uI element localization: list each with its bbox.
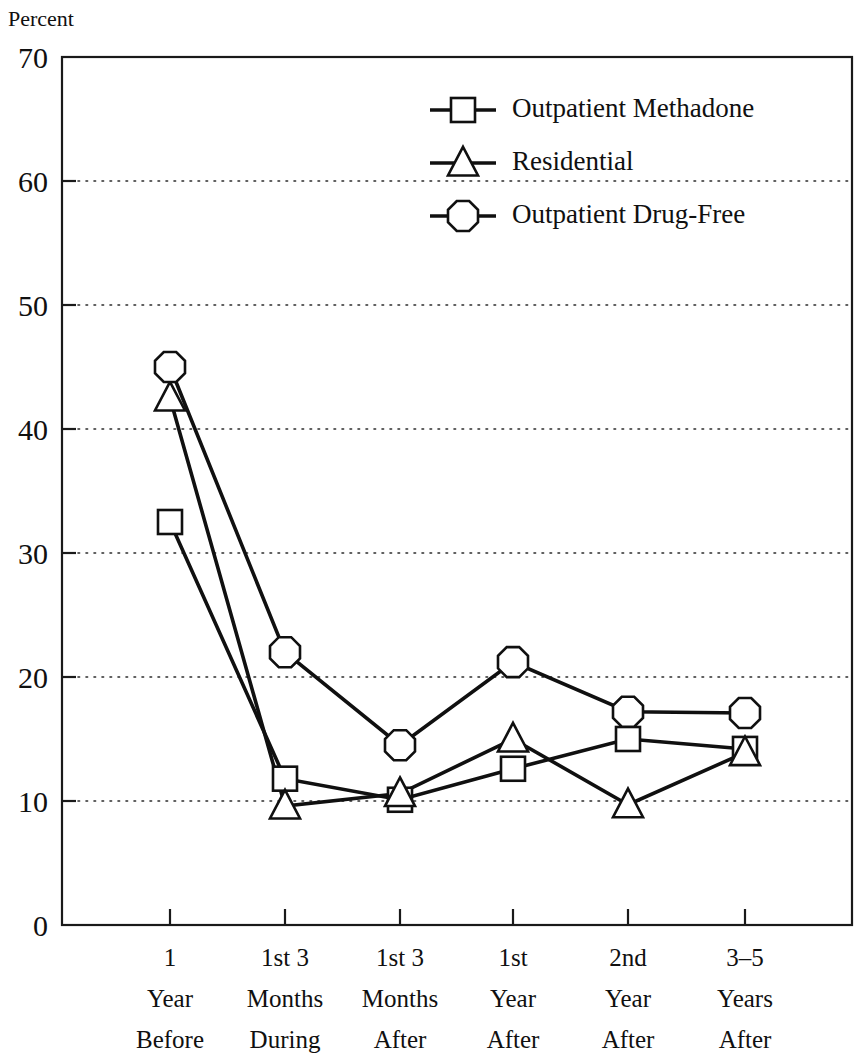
y-axis-title: Percent: [8, 6, 74, 31]
marker-octagon-s2-p4: [613, 697, 643, 727]
series-line-0: [170, 522, 745, 800]
x-tick-label-4-line-2: After: [602, 1026, 655, 1053]
legend-label-1: Residential: [512, 146, 633, 176]
line-chart: Percent 010203040506070 1YearBefore1st 3…: [0, 0, 862, 1059]
y-tick-label-30: 30: [18, 537, 48, 570]
legend-item-0[interactable]: Outpatient Methadone: [430, 93, 754, 123]
plot-frame: [62, 57, 852, 925]
marker-triangle-s1-p3: [498, 723, 528, 752]
y-tick-label-70: 70: [18, 41, 48, 74]
marker-square-s0-p3: [501, 757, 525, 781]
x-tick-label-5-line-2: After: [719, 1026, 772, 1053]
x-tick-label-0-line-2: Before: [136, 1026, 204, 1053]
marker-triangle-s1-p4: [613, 789, 643, 818]
legend-label-0: Outpatient Methadone: [512, 93, 754, 123]
series-line-2: [170, 367, 745, 745]
x-tick-label-4-line-1: Year: [605, 985, 652, 1012]
x-tick-label-0-line-0: 1: [164, 944, 177, 971]
x-axis-ticks: [170, 909, 745, 925]
marker-square-s0-p4: [616, 727, 640, 751]
x-tick-label-3-line-2: After: [487, 1026, 540, 1053]
x-tick-label-5-line-0: 3–5: [726, 944, 764, 971]
legend-marker-square: [451, 98, 475, 122]
y-axis-ticks: 010203040506070: [18, 41, 76, 942]
y-tick-label-40: 40: [18, 413, 48, 446]
legend-label-2: Outpatient Drug-Free: [512, 199, 745, 229]
marker-square-s0-p0: [158, 510, 182, 534]
marker-octagon-s2-p2: [385, 730, 415, 760]
x-tick-label-4-line-0: 2nd: [609, 944, 647, 971]
marker-octagon-s2-p3: [498, 647, 528, 677]
y-tick-label-0: 0: [33, 909, 48, 942]
x-tick-label-5-line-1: Years: [717, 985, 773, 1012]
legend-item-2[interactable]: Outpatient Drug-Free: [430, 199, 745, 231]
x-tick-label-1-line-1: Months: [247, 985, 323, 1012]
marker-octagon-s2-p1: [270, 637, 300, 667]
chart-container: Percent 010203040506070 1YearBefore1st 3…: [0, 0, 862, 1059]
x-tick-label-3-line-1: Year: [490, 985, 537, 1012]
y-tick-label-10: 10: [18, 785, 48, 818]
x-tick-label-2-line-1: Months: [362, 985, 438, 1012]
x-tick-label-0-line-1: Year: [147, 985, 194, 1012]
x-axis-tick-labels: 1YearBefore1st 3MonthsDuring1st 3MonthsA…: [136, 944, 773, 1053]
series-lines: [170, 367, 745, 806]
x-tick-label-2-line-0: 1st 3: [376, 944, 424, 971]
series-markers: [155, 352, 760, 818]
y-tick-label-20: 20: [18, 661, 48, 694]
marker-octagon-s2-p0: [155, 352, 185, 382]
series-line-1: [170, 398, 745, 806]
x-tick-label-3-line-0: 1st: [498, 944, 527, 971]
legend-marker-triangle: [448, 147, 478, 176]
x-tick-label-1-line-0: 1st 3: [261, 944, 309, 971]
y-tick-label-60: 60: [18, 165, 48, 198]
y-tick-label-50: 50: [18, 289, 48, 322]
legend-marker-octagon: [448, 201, 478, 231]
legend-item-1[interactable]: Residential: [430, 146, 633, 176]
data-series-group: [155, 352, 760, 818]
x-tick-label-2-line-2: After: [374, 1026, 427, 1053]
marker-octagon-s2-p5: [730, 698, 760, 728]
chart-legend: Outpatient MethadoneResidentialOutpatien…: [430, 93, 754, 231]
x-tick-label-1-line-2: During: [250, 1026, 321, 1053]
